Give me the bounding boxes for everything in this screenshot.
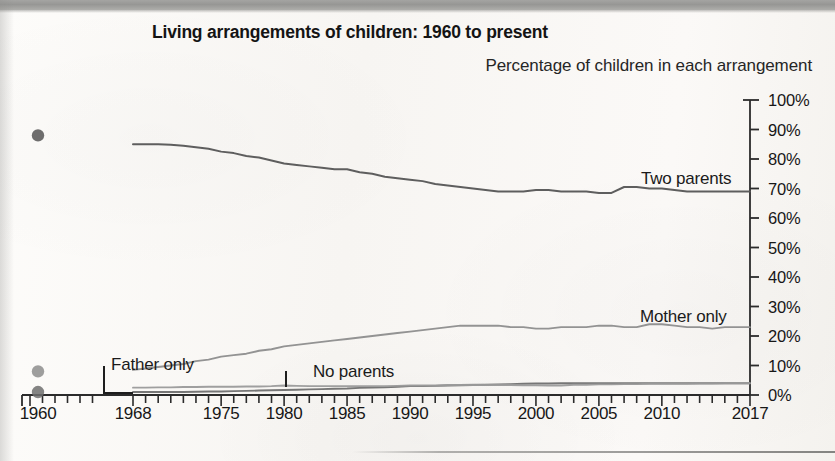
footer-rule <box>352 451 835 453</box>
series-annotation-label: Father only <box>111 355 194 375</box>
x-axis-tick-label: 2017 <box>732 404 769 424</box>
x-axis-tick-label: 1990 <box>392 404 429 424</box>
x-axis-tick-label: 2000 <box>518 404 555 424</box>
y-axis-tick-label: 40% <box>768 268 800 287</box>
series-annotation-label: Two parents <box>641 169 731 189</box>
chart-axes <box>22 100 750 395</box>
x-axis-tick-label: 1985 <box>329 404 366 424</box>
x-axis-tick-label: 1980 <box>266 404 303 424</box>
points-1960 <box>32 129 44 398</box>
y-axis-tick-label: 100% <box>768 91 809 110</box>
x-axis-tick-label: 1968 <box>115 404 152 424</box>
x-axis-tick-label: 1960 <box>20 404 57 424</box>
y-axis-tick-label: 0% <box>768 386 791 405</box>
y-axis-tick-label: 10% <box>768 356 800 375</box>
y-axis-tick-label: 80% <box>768 150 800 169</box>
x-axis-tick-label: 2005 <box>581 404 618 424</box>
y-axis-tick-label: 50% <box>768 238 800 257</box>
chart-plot-area <box>0 0 835 461</box>
x-axis-tick-label: 2010 <box>644 404 681 424</box>
y-axis-tick-label: 30% <box>768 297 800 316</box>
x-axis-tick-label: 1975 <box>203 404 240 424</box>
series-annotation-label: Mother only <box>640 307 727 327</box>
y-axis-tick-label: 90% <box>768 120 800 139</box>
x-axis-tick-label: 1995 <box>455 404 492 424</box>
y-axis-tick-label: 60% <box>768 209 800 228</box>
y-axis-tick-label: 70% <box>768 179 800 198</box>
y-axis-tick-label: 20% <box>768 327 800 346</box>
series-annotation-label: No parents <box>313 362 394 382</box>
